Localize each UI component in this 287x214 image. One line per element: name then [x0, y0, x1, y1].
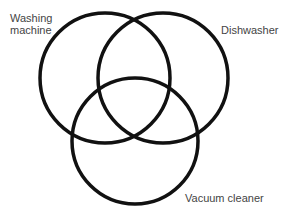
dishwasher-circle: [98, 13, 228, 143]
vacuum-cleaner-label: Vacuum cleaner: [185, 192, 264, 204]
washing-machine-circle: [40, 13, 170, 143]
dishwasher-label: Dishwasher: [221, 24, 278, 36]
washing-machine-label-line2: machine: [10, 24, 52, 36]
washing-machine-label-line1: Washing: [10, 12, 52, 24]
washing-machine-label: Washing machine: [10, 12, 52, 36]
